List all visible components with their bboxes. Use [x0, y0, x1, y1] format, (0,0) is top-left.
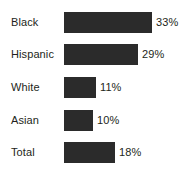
bar [64, 77, 96, 98]
category-label: Asian [11, 114, 39, 127]
chart-row: Asian 10% [0, 104, 194, 136]
bar [64, 142, 115, 163]
chart-row: White 11% [0, 71, 194, 103]
category-label: White [11, 81, 40, 94]
bar-track: 10% [64, 104, 119, 136]
horizontal-bar-chart: Black 33% Hispanic 29% White 11% Asian 1… [0, 0, 194, 173]
bar-value-label: 10% [97, 114, 119, 127]
bar [64, 44, 138, 65]
chart-row: Black 33% [0, 6, 194, 38]
bar [64, 110, 93, 131]
bar-track: 33% [64, 6, 178, 38]
bar-value-label: 33% [156, 16, 178, 29]
bar-track: 29% [64, 38, 164, 70]
bar-value-label: 11% [100, 81, 122, 94]
bar-track: 18% [64, 136, 141, 168]
bar-value-label: 18% [119, 146, 141, 159]
bar-track: 11% [64, 71, 122, 103]
category-label: Black [11, 16, 38, 29]
bar-value-label: 29% [142, 48, 164, 61]
category-label: Hispanic [11, 48, 54, 61]
bar [64, 12, 152, 33]
chart-row: Total 18% [0, 136, 194, 168]
chart-row: Hispanic 29% [0, 38, 194, 70]
category-label: Total [11, 146, 35, 159]
